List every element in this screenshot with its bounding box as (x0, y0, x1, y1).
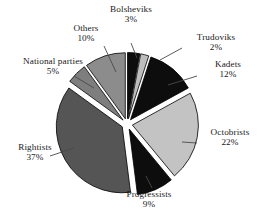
slice-label-others-percent: 10% (58, 34, 114, 44)
leader-line-trudoviks (160, 48, 182, 60)
slice-label-octobrists-percent: 22% (198, 138, 262, 148)
slice-label-kadets: Kadets 12% (198, 60, 258, 80)
slice-label-kadets-percent: 12% (198, 70, 258, 80)
slice-label-bolsheviks: Bolsheviks 3% (95, 5, 167, 25)
slice-label-progressists: Progressists 9% (110, 190, 188, 210)
slice-label-rightists: Rightists 37% (4, 143, 66, 163)
pie-chart: Bolsheviks 3% Trudoviks 2% Kadets 12% Oc… (0, 0, 266, 222)
slice-label-rightists-percent: 37% (4, 153, 66, 163)
slice-label-national-parties-percent: 5% (6, 67, 100, 77)
slice-label-trudoviks-percent: 2% (182, 43, 250, 53)
slice-label-trudoviks: Trudoviks 2% (182, 33, 250, 53)
slice-label-national-parties: National parties 5% (6, 57, 100, 77)
slice-label-others: Others 10% (58, 24, 114, 44)
slice-label-octobrists: Octobrists 22% (198, 128, 262, 148)
slice-label-progressists-percent: 9% (110, 200, 188, 210)
